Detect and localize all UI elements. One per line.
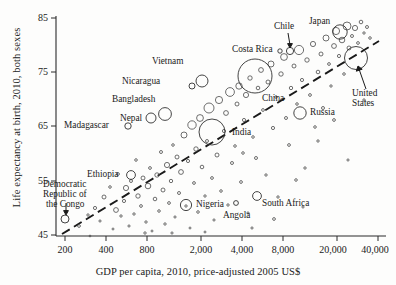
point-costa-rica <box>278 49 282 53</box>
label-madagascar: Madagascar <box>64 121 109 131</box>
label-russia: Russia <box>310 108 335 118</box>
x-tick-4000: 4,000 <box>219 244 265 255</box>
y-tick-85: 85 <box>26 12 48 23</box>
label-nigeria: Nigeria <box>196 200 224 210</box>
y-axis-title: Life expectancy at birth, 2010, both sex… <box>11 10 22 226</box>
label-bangladesh: Bangladesh <box>112 95 155 105</box>
label-costa-rica: Costa Rica <box>232 45 273 55</box>
label-us-line2: States <box>352 98 374 108</box>
label-drc-line2: Republic of <box>43 189 87 199</box>
point-nicaragua <box>189 83 195 89</box>
x-tick-400: 400 <box>83 244 129 255</box>
label-drc-line3: the Congo <box>46 199 84 209</box>
x-tick-8000: 8,000 <box>260 244 306 255</box>
label-vietnam: Vietnam <box>152 57 183 67</box>
x-axis-ticks <box>65 236 378 241</box>
scatter-chart-figure: Life expectancy at birth, 2010, both sex… <box>0 0 396 285</box>
label-nepal: Nepal <box>120 114 142 124</box>
point-united-states <box>345 47 368 70</box>
label-india: India <box>232 128 251 138</box>
point-china <box>238 59 272 93</box>
point-vietnam <box>196 75 208 87</box>
point-japan <box>333 25 347 39</box>
us-arrowhead <box>356 66 362 71</box>
label-drc-line1: Democratic <box>43 179 86 189</box>
drc-arrowhead <box>64 211 69 215</box>
y-tick-45: 45 <box>26 229 48 240</box>
point-nepal <box>146 113 156 123</box>
x-tick-2000: 2,000 <box>178 244 224 255</box>
label-angola: Angola <box>223 211 250 221</box>
point-angola <box>234 201 239 206</box>
x-tick-40000: 40,000 <box>352 244 396 255</box>
label-nicaragua: Nicaragua <box>122 77 160 87</box>
label-japan: Japan <box>309 17 330 27</box>
point-russia <box>294 107 306 119</box>
x-axis-title: GDP per capita, 2010, price-adjusted 200… <box>0 266 396 277</box>
x-tick-200: 200 <box>42 244 88 255</box>
x-tick-20000: 20,000 <box>310 244 356 255</box>
label-south-africa: South Africa <box>262 199 309 209</box>
label-chile: Chile <box>274 22 294 32</box>
point-madagascar <box>125 123 131 129</box>
point-india <box>199 119 225 145</box>
point-bangladesh <box>159 108 172 121</box>
label-ethiopia: Ethiopia <box>87 170 119 180</box>
y-tick-65: 65 <box>26 120 48 131</box>
point-ethiopia <box>127 171 136 180</box>
label-china: China <box>262 94 284 104</box>
point-drc <box>61 215 69 223</box>
y-tick-75: 75 <box>26 66 48 77</box>
point-south-africa <box>253 192 262 201</box>
label-us-line1: United <box>352 88 377 98</box>
plot-canvas <box>0 0 396 285</box>
x-tick-800: 800 <box>124 244 170 255</box>
